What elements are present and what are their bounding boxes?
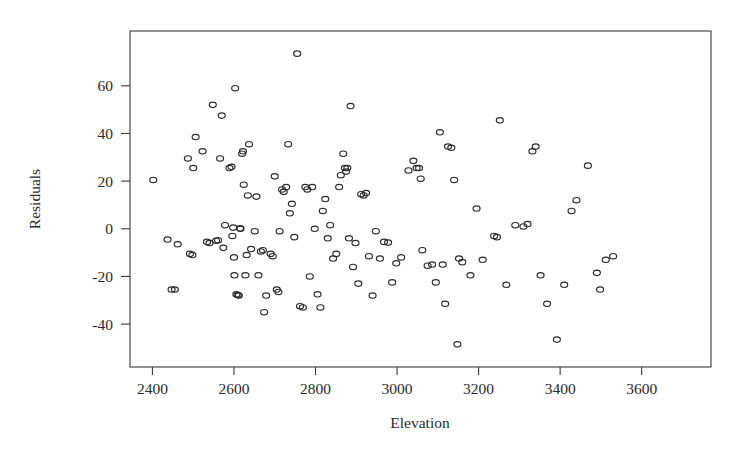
data-point [593, 270, 600, 275]
data-point [327, 223, 334, 228]
figure-container: 2400260028003000320034003600 -40-2002040… [0, 0, 748, 453]
data-point [217, 156, 224, 161]
data-point [610, 253, 617, 258]
data-point [424, 263, 431, 268]
data-point [419, 248, 426, 253]
data-point [288, 201, 295, 206]
x-axis-tick-labels: 2400260028003000320034003600 [137, 380, 658, 397]
data-point [324, 236, 331, 241]
y-tick-label--20: -20 [92, 268, 113, 285]
data-point [369, 293, 376, 298]
data-point [602, 257, 609, 262]
y-tick-label-40: 40 [98, 125, 114, 142]
data-point [291, 234, 298, 239]
data-point [352, 240, 359, 245]
data-point [263, 293, 270, 298]
data-point [311, 226, 318, 231]
data-point [240, 182, 247, 187]
data-point [206, 240, 213, 245]
data-point [417, 176, 424, 181]
data-point [261, 309, 268, 314]
data-point [376, 256, 383, 261]
data-point [285, 141, 292, 146]
x-tick-label-2400: 2400 [137, 380, 168, 397]
data-point [385, 240, 392, 245]
data-point [340, 151, 347, 156]
data-point [451, 177, 458, 182]
data-point [532, 144, 539, 149]
data-point [442, 301, 449, 306]
data-point [255, 273, 262, 278]
x-axis-ticks [152, 367, 641, 375]
data-point [218, 113, 225, 118]
data-point [365, 253, 372, 258]
data-point [584, 163, 591, 168]
data-point [347, 103, 354, 108]
data-point [454, 342, 461, 347]
x-tick-label-2600: 2600 [218, 380, 249, 397]
x-tick-label-3000: 3000 [382, 380, 413, 397]
data-point [199, 149, 206, 154]
data-point [244, 193, 251, 198]
data-point [439, 262, 446, 267]
data-point [405, 168, 412, 173]
data-point [150, 177, 157, 182]
data-point [192, 134, 199, 139]
data-point [229, 233, 236, 238]
data-point [231, 273, 238, 278]
data-point [355, 281, 362, 286]
y-tick-label-0: 0 [105, 220, 113, 237]
data-point [174, 242, 181, 247]
data-point [246, 141, 253, 146]
data-point [306, 274, 313, 279]
data-point [222, 223, 229, 228]
data-point [243, 252, 250, 257]
data-point [164, 237, 171, 242]
data-point [398, 255, 405, 260]
scatter-plot: 2400260028003000320034003600 -40-2002040… [0, 0, 748, 453]
data-point [232, 85, 239, 90]
data-point [251, 228, 258, 233]
data-point-group [150, 51, 617, 347]
data-point [573, 197, 580, 202]
data-point [276, 228, 283, 233]
data-point [248, 246, 255, 251]
x-tick-label-2800: 2800 [300, 380, 331, 397]
data-point [496, 118, 503, 123]
data-point [271, 174, 278, 179]
x-tick-label-3200: 3200 [463, 380, 494, 397]
data-point [209, 102, 216, 107]
data-point [372, 228, 379, 233]
y-tick-label-20: 20 [98, 173, 114, 190]
data-point [436, 130, 443, 135]
data-point [189, 252, 196, 257]
data-point [336, 184, 343, 189]
data-point [230, 255, 237, 260]
data-point [230, 225, 237, 230]
data-point [503, 282, 510, 287]
data-point [410, 158, 417, 163]
data-point [393, 261, 400, 266]
y-axis-ticks [121, 86, 130, 324]
data-point [317, 305, 324, 310]
x-axis-title: Elevation [390, 414, 450, 431]
data-point [184, 156, 191, 161]
data-point [190, 165, 197, 170]
data-point [228, 164, 235, 169]
data-point [314, 292, 321, 297]
y-axis-title: Residuals [26, 169, 43, 229]
data-point [220, 245, 227, 250]
data-point [537, 273, 544, 278]
y-tick-label-60: 60 [98, 77, 114, 94]
data-point [259, 248, 266, 253]
y-tick-label--40: -40 [92, 316, 113, 333]
data-point [322, 196, 329, 201]
data-point [512, 223, 519, 228]
data-point [319, 208, 326, 213]
data-point [553, 337, 560, 342]
data-point [286, 211, 293, 216]
data-point [544, 301, 551, 306]
data-point [561, 282, 568, 287]
data-point [242, 273, 249, 278]
y-axis-tick-labels: -40-200204060 [92, 77, 113, 332]
